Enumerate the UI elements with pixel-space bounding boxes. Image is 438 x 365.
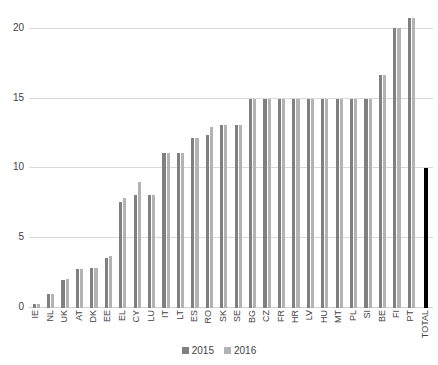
bar-group [274,8,288,308]
bars-layer [29,8,433,308]
legend-swatch-2016 [224,347,231,354]
bar-group [217,8,231,308]
x-axis-label-sk: SK [219,310,228,322]
bar-group [289,8,303,308]
legend-label-2015: 2015 [192,345,214,356]
legend-item-2016: 2016 [224,344,256,356]
bar-group [361,8,375,308]
x-axis-label-ee: EE [103,310,112,322]
bar-be-2015 [379,75,382,308]
x-axis-label-dk: DK [89,310,98,323]
bar-bg-2015 [249,99,252,308]
x-axis-label-at: AT [75,310,84,321]
x-axis-label-hu: HU [320,310,329,323]
bar-hr-2016 [296,99,299,308]
bar-group [419,8,433,308]
bar-lv-2016 [311,99,314,308]
bar-group [332,8,346,308]
bar-fr-2016 [282,99,285,308]
bar-se-2015 [235,125,238,308]
bar-sk-2016 [224,125,227,308]
bar-hu-2016 [325,99,328,308]
bar-mt-2016 [340,99,343,308]
bar-uk-2016 [66,279,69,308]
y-axis-tick-label: 15 [13,93,24,103]
bar-ee-2015 [105,258,108,308]
bar-group [29,8,43,308]
bar-group [390,8,404,308]
bar-be-2016 [383,75,386,308]
x-axis-label-hr: HR [291,310,300,323]
x-axis-label-uk: UK [60,310,69,323]
bar-fr-2015 [278,99,281,308]
bar-group [173,8,187,308]
bar-si-2015 [364,99,367,308]
bar-group [130,8,144,308]
x-axis-label-be: BE [378,310,387,322]
bar-lt-2015 [177,153,180,308]
bar-pt-2015 [408,18,411,308]
bar-group [43,8,57,308]
x-axis-label-it: IT [161,310,170,318]
bar-nl-2016 [51,294,54,308]
bar-cz-2016 [268,99,271,308]
bar-cz-2015 [263,99,266,308]
bar-es-2015 [191,138,194,308]
bar-ee-2016 [109,256,112,308]
bar-at-2016 [80,269,83,308]
y-axis-tick-label: 0 [18,302,24,312]
legend-label-2016: 2016 [234,345,256,356]
bar-group [303,8,317,308]
bar-lv-2015 [307,99,310,308]
x-axis-label-fi: FI [392,310,401,318]
plot-area: 05101520 [29,8,433,308]
bar-ro-2016 [210,127,213,308]
y-axis-tick-label: 20 [13,23,24,33]
legend-item-2015: 2015 [182,344,214,356]
x-axis-label-total: TOTAL [421,310,430,338]
bar-group [202,8,216,308]
x-axis-label-si: SI [363,310,372,319]
legend-swatch-2015 [182,347,189,354]
bar-dk-2015 [90,268,93,308]
bar-lt-2016 [181,153,184,308]
bar-ie-2015 [33,304,36,308]
bar-sk-2015 [220,125,223,308]
bar-group [245,8,259,308]
x-axis-label-pt: PT [406,310,415,322]
bar-lu-2016 [152,195,155,308]
x-axis-label-lt: LT [176,310,185,320]
bar-group [58,8,72,308]
bar-at-2015 [76,269,79,308]
bar-se-2016 [239,125,242,308]
bar-it-2015 [162,153,165,308]
y-axis-tick-label: 10 [13,162,24,172]
bar-dk-2016 [94,268,97,308]
bar-group [188,8,202,308]
bar-ro-2015 [206,135,209,308]
bar-nl-2015 [47,294,50,308]
bar-group [404,8,418,308]
bar-cy-2016 [138,182,141,308]
bar-group [260,8,274,308]
x-axis-label-pl: PL [349,310,358,321]
bar-pt-2016 [412,18,415,308]
x-axis-label-es: ES [190,310,199,322]
bar-bg-2016 [253,99,256,308]
x-axis-label-bg: BG [248,310,257,323]
chart-legend: 20152016 [0,344,438,356]
bar-fi-2015 [393,28,396,308]
bar-group [116,8,130,308]
bar-group [346,8,360,308]
bar-uk-2015 [61,280,64,308]
bar-si-2016 [369,99,372,308]
x-axis-label-nl: NL [46,310,55,322]
bar-mt-2015 [336,99,339,308]
y-axis-tick-label: 5 [18,232,24,242]
bar-el-2016 [123,198,126,308]
x-axis-label-ro: RO [204,310,213,324]
x-axis-label-lv: LV [305,310,314,320]
bar-group [101,8,115,308]
bar-chart: 05101520 IENLUKATDKEEELCYLUITLTESROSKSEB… [0,0,438,365]
bar-hr-2015 [292,99,295,308]
